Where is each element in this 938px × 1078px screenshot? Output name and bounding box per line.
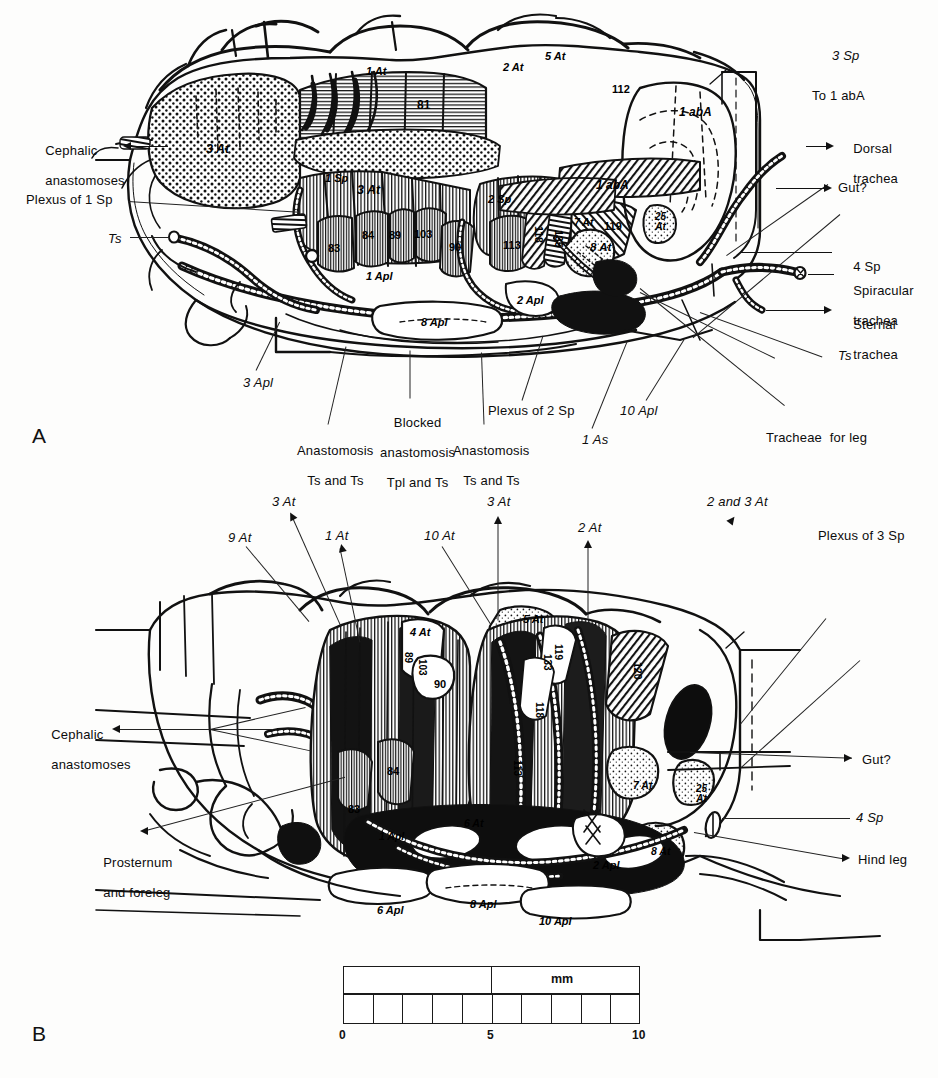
label-line-1: Anastomosis xyxy=(453,443,530,458)
scale-tick-1 xyxy=(373,994,374,1024)
inlabel-a-25at: 25 At xyxy=(655,212,666,232)
scale-tick-4 xyxy=(462,994,463,1024)
leader-ts-left-a xyxy=(130,237,170,238)
inlabel-b-133: 133 xyxy=(541,654,552,671)
inlabel-a-81: 81 xyxy=(417,99,430,112)
inlabel-a-103: 103 xyxy=(414,229,432,241)
label-b-hind-leg: Hind leg xyxy=(858,852,907,867)
arrowhead-b-cephalic xyxy=(112,725,120,733)
inlabel-a-3at-left: 3 At xyxy=(206,143,229,156)
inlabel-a-2at: 2 At xyxy=(503,62,523,74)
label-ts-right-a: Ts xyxy=(838,348,852,363)
arrowhead-dorsal-trachea xyxy=(826,142,834,150)
arrowhead-b-gut xyxy=(844,754,852,762)
label-sternal-trachea: Sternal trachea xyxy=(838,302,934,377)
inlabel-b-120: 120 xyxy=(632,662,643,680)
label-ts-left-a: Ts xyxy=(108,231,122,246)
scale-tick-8 xyxy=(581,994,582,1024)
label-b-2at: 2 At xyxy=(578,520,601,535)
label-line-1: Spiracular xyxy=(853,283,914,298)
arrowhead-b-1at xyxy=(337,543,346,552)
scale-tick-6 xyxy=(521,994,522,1024)
panel-letter-a: A xyxy=(32,424,46,448)
inlabel-a-84: 84 xyxy=(362,230,374,242)
inlabel-a-5at: 5 At xyxy=(545,51,565,63)
label-tracheae-for-leg: Tracheae for leg xyxy=(766,430,867,445)
label-b-plexus-of-3-sp: Plexus of 3 Sp xyxy=(818,528,905,543)
label-line-2: trachea xyxy=(853,347,898,362)
scale-number-5: 5 xyxy=(487,1028,494,1042)
label-line-1: Cephalic xyxy=(51,727,103,742)
label-b-9at: 9 At xyxy=(228,530,251,545)
scale-bar: mm xyxy=(343,966,640,1026)
label-to-1-aba: To 1 abA xyxy=(812,88,865,103)
label-1-as: 1 As xyxy=(582,432,608,447)
inlabel-b-7at: 7 At xyxy=(633,780,652,791)
inlabel-b-113: 113 xyxy=(511,760,522,776)
inlabel-a-1apl: 1 Apl xyxy=(366,271,393,283)
label-plexus-of-2-sp: Plexus of 2 Sp xyxy=(488,403,575,418)
inlabel-b-4at: 4 At xyxy=(410,627,430,639)
inlabel-b-2apl: 2 Apl xyxy=(593,860,620,872)
scale-tick-3 xyxy=(432,994,433,1024)
inlabel-b-6at: 6 At xyxy=(464,818,483,829)
inlabel-a-8at: 8 At xyxy=(590,241,611,253)
label-3-apl-a: 3 Apl xyxy=(243,375,273,390)
inlabel-b-25at: 25 At xyxy=(696,784,707,804)
scale-number-10: 10 xyxy=(632,1028,645,1042)
arrowhead-b-2at xyxy=(584,540,592,548)
inlabel-b-119: 119 xyxy=(552,644,563,660)
inlabel-a-135: 135 xyxy=(553,230,564,248)
label-10-apl-a: 10 Apl xyxy=(620,403,658,418)
inlabel-a-90: 90 xyxy=(449,242,461,254)
inlabel-b-103: 103 xyxy=(416,659,427,676)
label-line-2: and foreleg xyxy=(103,885,170,900)
label-gut-a: Gut? xyxy=(838,180,867,195)
inlabel-a-1sp: 1 Sp xyxy=(325,173,348,185)
leader-blocked-anastomosis xyxy=(410,351,411,399)
label-b-prosternum-foreleg: Prosternum and foreleg xyxy=(88,840,208,915)
arrowhead-sternal xyxy=(824,306,832,314)
arrowhead-b-hind-leg xyxy=(842,854,850,862)
inlabel-b-89: 89 xyxy=(402,652,413,663)
inlabel-b-1apl: 1 Apl xyxy=(379,831,404,842)
arrowhead-cephalic-a xyxy=(123,142,131,150)
leader-sternal xyxy=(766,310,828,311)
label-b-4sp: 4 Sp xyxy=(856,810,884,825)
inlabel-a-118: 118 xyxy=(533,226,544,243)
leader-4sp-a xyxy=(740,252,832,253)
scale-unit-label: mm xyxy=(551,972,573,986)
label-anastomosis-ts-ts-right: Anastomosis Ts and Ts xyxy=(424,428,544,503)
label-line-2: anastomoses xyxy=(45,173,125,188)
label-b-3at-left: 3 At xyxy=(272,494,295,509)
leader-b-cephalic-1 xyxy=(118,729,272,730)
scale-number-0: 0 xyxy=(339,1028,346,1042)
inlabel-a-7at: 7 At xyxy=(574,217,593,228)
label-3-sp: 3 Sp xyxy=(832,48,860,63)
inlabel-a-113: 113 xyxy=(503,240,521,252)
scale-tick-5 xyxy=(492,994,493,1024)
inlabel-a-1at: 1 At xyxy=(366,66,386,78)
inlabel-b-8at: 8 At xyxy=(651,846,670,857)
inlabel-b-90: 90 xyxy=(434,679,446,691)
label-line-1: Dorsal xyxy=(853,141,892,156)
label-line-1: Prosternum xyxy=(103,855,172,870)
inlabel-a-1aba-mid: 1 abA xyxy=(596,179,629,192)
label-line-2: Ts and Ts xyxy=(463,473,519,488)
scale-bar-midline xyxy=(491,966,492,994)
inlabel-b-118: 118 xyxy=(533,702,544,718)
label-line-1: Sternal xyxy=(853,317,896,332)
leader-gut-a xyxy=(776,188,828,189)
inlabel-b-83: 83 xyxy=(348,804,360,816)
panel-letter-b: B xyxy=(32,1022,46,1046)
label-line-1: Cephalic xyxy=(45,143,97,158)
scale-tick-9 xyxy=(610,994,611,1024)
inlabel-a-112: 112 xyxy=(612,84,630,96)
scale-tick-2 xyxy=(402,994,403,1024)
inlabel-b-10apl: 10 Apl xyxy=(539,916,572,928)
inlabel-a-2apl: 2 Apl xyxy=(517,295,544,307)
inlabel-a-8apl: 8 Apl xyxy=(421,317,448,329)
leader-b-4sp xyxy=(722,818,850,819)
arrowhead-b-prosternum xyxy=(140,827,148,835)
inlabel-a-2sp: 2 Sp xyxy=(488,194,511,206)
